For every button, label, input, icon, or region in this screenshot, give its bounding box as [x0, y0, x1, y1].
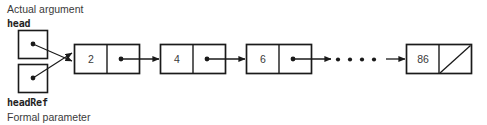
list-node: 4 — [161, 45, 246, 74]
node-1-value: 2 — [88, 53, 94, 65]
diagram-canvas: 2 4 6 — [0, 0, 487, 125]
list-node: 2 — [75, 45, 160, 74]
list-node: 86 — [407, 45, 472, 74]
node-3-value: 6 — [260, 53, 266, 65]
node-2-value: 4 — [174, 53, 180, 65]
linked-list-diagram: Actual argument head headRef Formal para… — [0, 0, 487, 125]
node-4-value: 86 — [417, 53, 429, 65]
list-node: 6 — [247, 45, 332, 74]
ellipsis-icon — [336, 57, 376, 61]
headref-pointer-box — [19, 65, 48, 93]
